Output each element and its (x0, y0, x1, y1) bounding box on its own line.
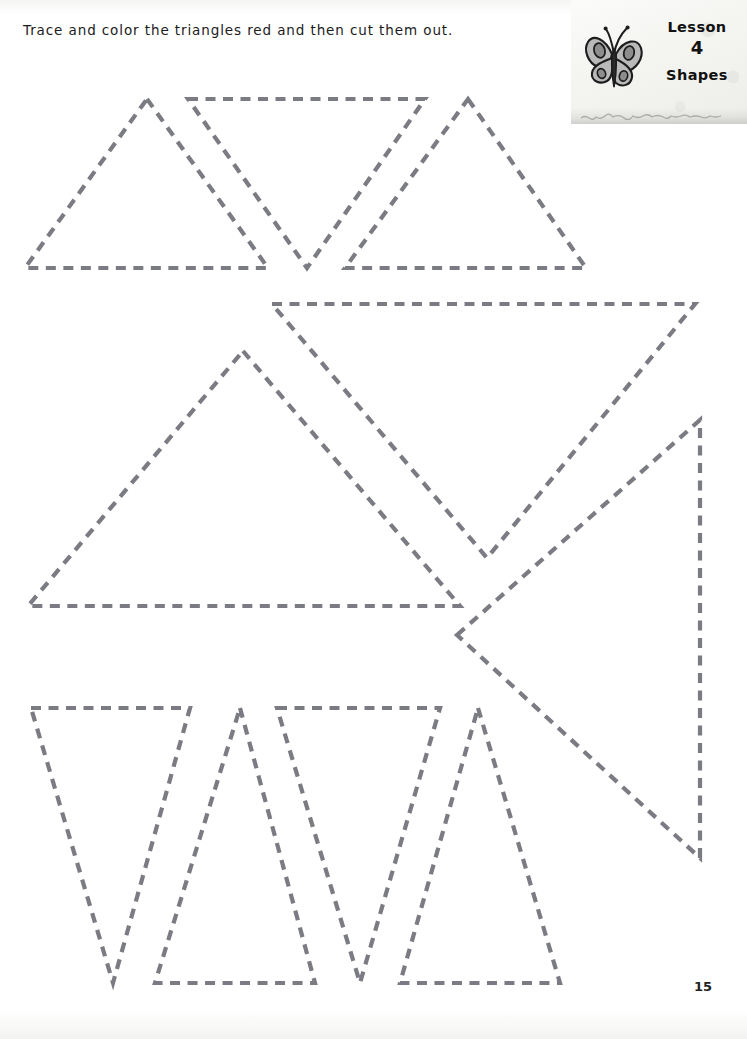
trace-triangle-2 (188, 99, 425, 268)
page-number: 15 (694, 979, 712, 994)
trace-triangle-4 (28, 351, 460, 606)
trace-triangle-9 (277, 708, 440, 983)
paper-edge-bottom (0, 1009, 747, 1039)
trace-triangle-10 (400, 708, 560, 983)
worksheet-page: Trace and color the triangles red and th… (0, 0, 747, 1039)
trace-triangle-1 (25, 99, 268, 268)
trace-triangle-3 (345, 99, 586, 268)
triangle-shapes-canvas (0, 0, 747, 1039)
trace-triangle-6 (457, 420, 700, 858)
trace-triangle-5 (272, 304, 695, 558)
trace-triangle-7 (31, 708, 190, 983)
